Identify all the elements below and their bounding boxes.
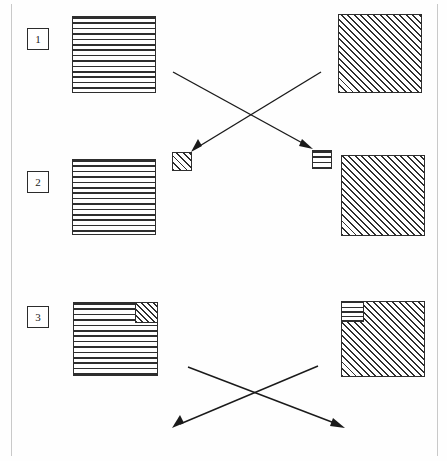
figure-canvas: 1 2 3 <box>0 0 447 461</box>
row-index-box-3: 3 <box>27 306 49 328</box>
row-index-box-1: 1 <box>27 28 49 50</box>
row-2-right-square <box>341 155 425 236</box>
row-1-right-square <box>338 14 422 93</box>
row-2-left-square <box>72 159 156 235</box>
row-index-box-2: 2 <box>27 171 49 193</box>
figure-frame-right-rule <box>437 4 438 456</box>
row-3-right-square-inset <box>341 301 364 322</box>
arrow-row3-left-square-outward <box>188 367 345 428</box>
arrow-right-square-to-left-target <box>191 72 321 152</box>
right-small-target-square <box>312 150 332 169</box>
arrow-row3-right-square-outward <box>172 366 318 428</box>
left-small-target-square <box>172 152 192 171</box>
arrow-left-square-to-right-target <box>173 72 313 149</box>
row-3-right-square <box>341 301 425 377</box>
figure-frame-left-rule <box>11 4 12 456</box>
row-index-label-1: 1 <box>35 34 41 45</box>
row-3-left-square-inset <box>135 302 158 323</box>
row-1-left-square <box>72 16 156 93</box>
row-index-label-2: 2 <box>35 177 41 188</box>
row-3-left-square <box>73 302 158 376</box>
row-index-label-3: 3 <box>35 312 41 323</box>
